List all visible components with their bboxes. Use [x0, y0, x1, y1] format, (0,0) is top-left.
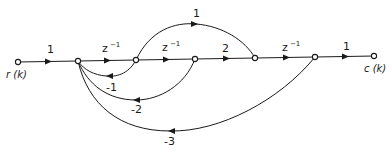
arrow-n3-n4 — [223, 56, 230, 62]
gain-feedback-1: -1 — [106, 81, 117, 94]
gain-n1-n2: z — [102, 42, 108, 55]
gain-r-n1: 1 — [47, 43, 54, 56]
edge-n3-n1-feedback — [78, 59, 195, 100]
gain-n4-n5-exponent: −1 — [290, 40, 300, 48]
output-label: c (k) — [364, 63, 386, 74]
gain-n1-n2-exponent: −1 — [110, 41, 120, 49]
gain-n4-n5: z — [282, 41, 288, 54]
arrow-n1-n2 — [104, 58, 111, 64]
node-5 — [312, 54, 317, 59]
edge-n2-n1-feedback — [78, 60, 136, 76]
arrow-feedforward — [191, 21, 198, 27]
node-4 — [252, 55, 257, 60]
arrow-feedback-3 — [168, 128, 175, 134]
arrow-n5-c — [342, 54, 349, 60]
gain-feedback-3: -3 — [164, 135, 175, 148]
gain-n2-n3-exponent: −1 — [170, 40, 180, 48]
gain-feedforward: 1 — [193, 7, 200, 20]
edge-n5-n1-feedback — [78, 57, 315, 131]
arrow-n2-n3 — [163, 57, 170, 63]
gain-n5-c: 1 — [343, 40, 350, 53]
gain-feedback-2: -2 — [131, 103, 142, 116]
node-2 — [133, 57, 138, 62]
gain-n2-n3: z — [162, 41, 168, 54]
arrow-r-n1 — [45, 59, 52, 65]
node-output — [371, 53, 376, 58]
arrow-n4-n5 — [283, 55, 290, 61]
signal-flow-graph: r (k) c (k) 1 z −1 z −1 2 z −1 1 1 -1 -2… — [0, 0, 392, 154]
node-1 — [75, 58, 80, 63]
input-label: r (k) — [6, 69, 27, 80]
arrow-feedback-1 — [106, 73, 113, 79]
edge-n2-n4-feedforward — [136, 24, 255, 60]
node-3 — [192, 56, 197, 61]
gain-n3-n4: 2 — [222, 42, 229, 55]
node-input — [15, 59, 20, 64]
